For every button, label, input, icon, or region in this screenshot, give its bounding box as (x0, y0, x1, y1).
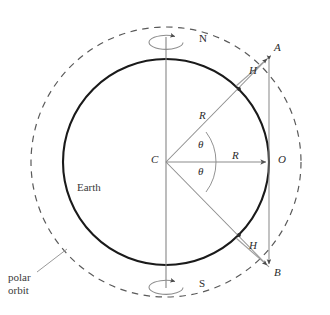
label-theta-lower: θ (198, 166, 203, 178)
label-north-pole: N (199, 33, 207, 45)
label-radius-equator: R (232, 150, 239, 162)
orbit-label-leader (37, 249, 67, 272)
theta-arc-upper (206, 132, 216, 162)
label-south-pole: S (199, 278, 205, 290)
label-theta-upper: θ (198, 139, 203, 151)
label-center-c: C (151, 154, 158, 166)
polar-orbit-diagram: N S C O A B H H R R θ θ Earth polar orbi… (0, 0, 330, 315)
label-horizon-lower: H (249, 240, 257, 252)
label-horizon-upper: H (249, 65, 257, 77)
label-polar-orbit-line1: polar (8, 272, 31, 284)
label-earth: Earth (77, 182, 101, 194)
theta-arc-lower (206, 162, 216, 192)
label-point-a: A (274, 42, 281, 54)
label-observer-o: O (278, 154, 286, 166)
label-radius-diagonal: R (199, 110, 206, 122)
label-point-b: B (274, 267, 281, 279)
tangent-point-lower (237, 233, 241, 237)
label-polar-orbit-line2: orbit (8, 285, 29, 297)
tangent-point-upper (237, 87, 241, 91)
